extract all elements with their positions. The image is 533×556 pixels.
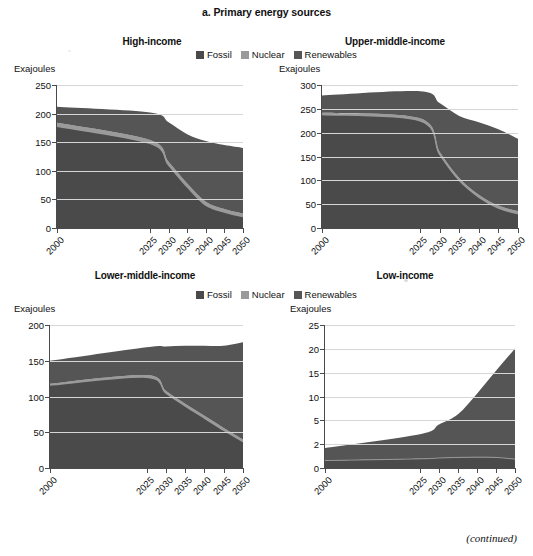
y-axis-tick-label: 150 xyxy=(14,355,44,366)
gridline xyxy=(50,432,243,433)
y-axis-tick-mark xyxy=(317,85,321,86)
x-axis-tick-mark xyxy=(224,469,225,473)
gridline xyxy=(57,199,243,200)
y-axis-tick-mark xyxy=(52,228,56,229)
x-axis-tick-mark xyxy=(204,469,205,473)
y-axis-tick-label: 0 xyxy=(21,223,51,234)
y-axis-tick-mark xyxy=(317,157,321,158)
y-axis-tick-mark xyxy=(52,142,56,143)
axis-unit-label: Exajoules xyxy=(279,63,320,74)
y-axis-tick-label: 150 xyxy=(21,137,51,148)
x-axis-tick-mark xyxy=(440,229,441,233)
y-axis-tick-label: 250 xyxy=(21,80,51,91)
y-axis-tick-label: 200 xyxy=(14,320,44,331)
y-axis-tick-mark xyxy=(317,228,321,229)
y-axis-tick-label: 300 xyxy=(286,80,316,91)
y-axis-tick-mark xyxy=(320,468,324,469)
gridline xyxy=(322,109,518,110)
y-axis-tick-label: 0 xyxy=(14,463,44,474)
gridline xyxy=(322,157,518,158)
gridline xyxy=(50,361,243,362)
x-axis-tick-mark xyxy=(325,469,326,473)
x-axis-tick-mark xyxy=(166,469,167,473)
y-axis-line xyxy=(324,325,325,469)
gridline xyxy=(325,397,515,398)
y-axis-tick-mark xyxy=(52,114,56,115)
axis-unit-label: Exajoules xyxy=(14,303,55,314)
y-axis-line xyxy=(56,85,57,229)
gridline xyxy=(57,85,243,86)
y-axis-tick-mark xyxy=(320,444,324,445)
y-axis-line xyxy=(49,325,50,469)
y-axis-tick-mark xyxy=(52,171,56,172)
y-axis-tick-mark xyxy=(317,109,321,110)
x-axis-tick-mark xyxy=(147,469,148,473)
x-axis-tick-mark xyxy=(50,469,51,473)
x-axis-tick-mark xyxy=(420,229,421,233)
gridline xyxy=(325,373,515,374)
panel-high-income: Exajoules 050100150200250200020252030203… xyxy=(0,0,265,265)
x-axis-tick-mark xyxy=(518,229,519,233)
gridline xyxy=(325,420,515,421)
y-axis-tick-label: 100 xyxy=(21,165,51,176)
x-axis-tick-label: 2000 xyxy=(32,475,59,502)
axis-unit-label: Exajoules xyxy=(290,303,331,314)
y-axis-tick-label: 5 xyxy=(289,415,319,426)
y-axis-tick-mark xyxy=(45,432,49,433)
y-axis-tick-mark xyxy=(45,325,49,326)
y-axis-line xyxy=(321,85,322,229)
x-axis-tick-mark xyxy=(57,229,58,233)
y-axis-tick-mark xyxy=(320,325,324,326)
y-axis-tick-label: 50 xyxy=(14,427,44,438)
x-axis-tick-mark xyxy=(169,229,170,233)
gridline xyxy=(50,397,243,398)
y-axis-tick-mark xyxy=(317,180,321,181)
y-axis-tick-label: 10 xyxy=(289,391,319,402)
y-axis-tick-mark xyxy=(45,361,49,362)
gridline xyxy=(50,325,243,326)
gridline xyxy=(57,114,243,115)
x-axis-tick-mark xyxy=(243,229,244,233)
x-axis-tick-mark xyxy=(439,469,440,473)
x-axis-tick-mark xyxy=(243,469,244,473)
y-axis-tick-mark xyxy=(320,397,324,398)
gridline xyxy=(57,171,243,172)
x-axis-tick-mark xyxy=(206,229,207,233)
gridline xyxy=(322,180,518,181)
y-axis-tick-label: 50 xyxy=(21,194,51,205)
panel-lower-middle-income: Exajoules 050100150200200020252030203520… xyxy=(0,240,265,510)
y-axis-tick-mark xyxy=(317,133,321,134)
continued-footnote: (continued) xyxy=(466,532,517,544)
gridline xyxy=(325,325,515,326)
figure-primary-energy-sources: a. Primary energy sources High-income Up… xyxy=(0,0,533,556)
y-axis-tick-label: 200 xyxy=(286,127,316,138)
y-axis-tick-mark xyxy=(45,468,49,469)
x-axis-tick-mark xyxy=(150,229,151,233)
x-axis-tick-mark xyxy=(187,229,188,233)
x-axis-tick-label: 2000 xyxy=(307,475,334,502)
x-axis-tick-mark xyxy=(185,469,186,473)
y-axis-tick-label: 0 xyxy=(286,223,316,234)
y-axis-tick-mark xyxy=(317,204,321,205)
y-axis-tick-label: 150 xyxy=(286,151,316,162)
x-axis-tick-mark xyxy=(479,229,480,233)
x-axis-tick-mark xyxy=(420,469,421,473)
x-axis-tick-mark xyxy=(458,469,459,473)
gridline xyxy=(322,133,518,134)
x-axis-tick-mark xyxy=(498,229,499,233)
y-axis-tick-label: 2 xyxy=(289,439,319,450)
gridline xyxy=(322,204,518,205)
y-axis-tick-mark xyxy=(45,397,49,398)
gridline xyxy=(322,85,518,86)
y-axis-tick-mark xyxy=(52,199,56,200)
y-axis-tick-label: 15 xyxy=(289,367,319,378)
x-axis-tick-mark xyxy=(459,229,460,233)
y-axis-tick-mark xyxy=(52,85,56,86)
x-axis-tick-mark xyxy=(322,229,323,233)
x-axis-tick-mark xyxy=(477,469,478,473)
plot-area-high-income xyxy=(57,85,243,228)
x-axis-tick-mark xyxy=(496,469,497,473)
gridline xyxy=(325,444,515,445)
y-axis-tick-mark xyxy=(320,349,324,350)
y-axis-tick-label: 200 xyxy=(21,108,51,119)
